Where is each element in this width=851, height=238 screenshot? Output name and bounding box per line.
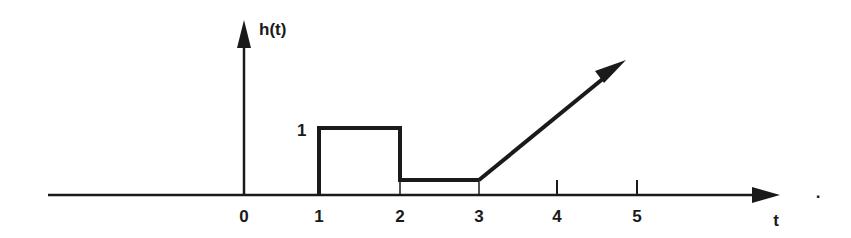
tick-label-0: 0 xyxy=(239,207,248,226)
tick-label-1: 1 xyxy=(314,207,323,226)
signal-curve xyxy=(319,128,479,195)
ramp-line xyxy=(479,73,610,180)
tick-label-3: 3 xyxy=(474,207,483,226)
x-axis-label: t xyxy=(773,211,779,230)
trailing-period: . xyxy=(816,183,821,202)
tick-label-5: 5 xyxy=(632,207,641,226)
y-axis-label: h(t) xyxy=(259,20,286,39)
x-axis-arrow-icon xyxy=(752,187,780,203)
tick-label-2: 2 xyxy=(395,207,404,226)
y-axis-arrow-icon xyxy=(237,20,251,48)
impulse-response-plot: h(t) 1 0 1 2 3 4 5 t . xyxy=(0,0,851,238)
tick-label-4: 4 xyxy=(552,207,562,226)
level-one-label: 1 xyxy=(297,121,306,140)
